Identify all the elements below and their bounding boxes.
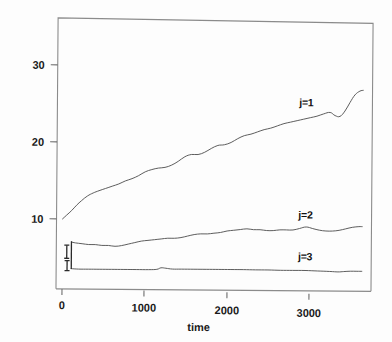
x-tick-label-2000: 2000 xyxy=(215,304,240,316)
x-axis-title: time xyxy=(187,321,210,333)
x-tick-label-0: 0 xyxy=(59,299,65,311)
figure-container: 30 20 10 0 1000 2000 3000 time xyxy=(0,0,392,342)
series-label-group: j=1 j=2 j=3 xyxy=(297,96,314,262)
series-line-j1 xyxy=(63,88,364,221)
plot-frame xyxy=(56,18,373,291)
x-tick-label-3000: 3000 xyxy=(297,307,322,319)
x-axis-line xyxy=(56,289,371,291)
y-tick-label-10: 10 xyxy=(31,213,43,225)
series-label-j2: j=2 xyxy=(297,208,313,220)
line-chart: 30 20 10 0 1000 2000 3000 time xyxy=(0,0,392,342)
series-label-j1: j=1 xyxy=(298,96,314,108)
plot-skew-wrapper: 30 20 10 0 1000 2000 3000 time xyxy=(0,0,392,342)
series-line-j2 xyxy=(71,224,362,248)
data-series-group xyxy=(62,88,363,272)
y-tick-label-30: 30 xyxy=(32,59,44,71)
x-tick-label-1000: 1000 xyxy=(132,301,157,313)
y-tick-label-20: 20 xyxy=(32,136,44,148)
series-line-j3 xyxy=(71,267,362,272)
series-label-j3: j=3 xyxy=(297,250,313,262)
scan-artifact-group xyxy=(64,241,71,270)
